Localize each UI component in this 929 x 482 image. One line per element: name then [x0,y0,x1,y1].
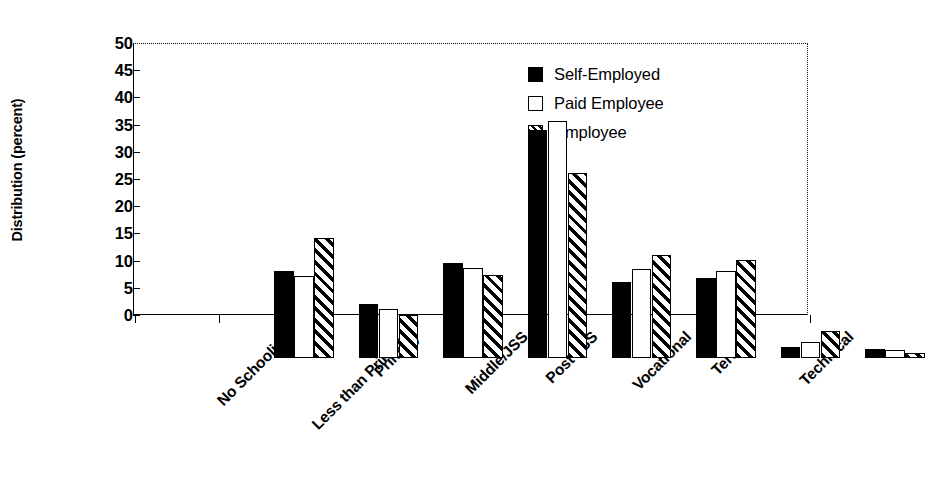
y-axis-tick-mark [133,125,140,126]
bar [399,315,419,358]
bar [781,347,801,358]
bar [652,255,672,358]
bar [548,121,568,358]
bar [905,353,925,358]
y-axis-tick-mark [133,206,140,207]
bar [294,276,314,358]
y-axis-tick-label: 30 [93,144,133,160]
y-axis-tick-label: 35 [93,117,133,133]
bar-group [437,87,521,358]
bar [359,304,379,358]
legend-swatch-icon [528,67,543,82]
bar [632,269,652,358]
y-axis-tick-label: 20 [93,198,133,214]
y-axis-tick-mark [133,97,140,98]
y-axis-tick-mark [133,70,140,71]
bar [528,130,548,358]
y-axis-tick-mark [133,179,140,180]
legend-label: Self-Employed [554,65,660,84]
bar [568,173,588,358]
bar [483,275,503,358]
bar [865,349,885,358]
y-axis-tick-label: 15 [93,225,133,241]
legend-swatch-icon [528,96,543,111]
bar [716,271,736,358]
y-axis-tick-labels: 05101520253035404550 [88,43,133,315]
y-axis-tick-mark [133,233,140,234]
legend-item: Self-Employed [528,60,778,89]
bar-group [268,87,352,358]
bar [696,278,716,359]
bar [885,350,905,358]
y-axis-tick-label: 10 [93,253,133,269]
y-axis-tick-mark [133,261,140,262]
y-axis-tick-label: 25 [93,171,133,187]
y-axis-tick-label: 40 [93,89,133,105]
bar [463,268,483,358]
bar [443,263,463,358]
bar [612,282,632,358]
y-axis-tick-label: 5 [93,280,133,296]
legend-item: Paid Employee [528,89,778,118]
x-axis-tick-mark [135,315,136,323]
bar [274,271,294,358]
x-axis-tick-mark [810,315,811,323]
bar [801,342,821,358]
bar [821,331,841,358]
y-axis-tick-label: 0 [93,307,133,323]
y-axis-tick-label: 45 [93,62,133,78]
bar-group [774,87,858,358]
bar-group [352,87,436,358]
y-axis-tick-label: 50 [93,35,133,51]
bar [314,238,334,358]
bar [736,260,756,358]
y-axis-tick-mark [133,288,140,289]
legend-label: Paid Employee [554,94,664,113]
y-axis-tick-mark [133,152,140,153]
y-axis-title: Distribution (percent) [6,40,28,300]
x-axis-tick-mark [219,315,220,323]
bar [379,309,399,358]
bar-group [859,87,929,358]
